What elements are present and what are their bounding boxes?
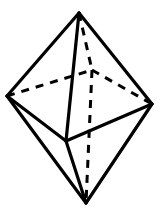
bipyramid-figure: Trigonal bipyramid wireframe	[0, 0, 161, 214]
